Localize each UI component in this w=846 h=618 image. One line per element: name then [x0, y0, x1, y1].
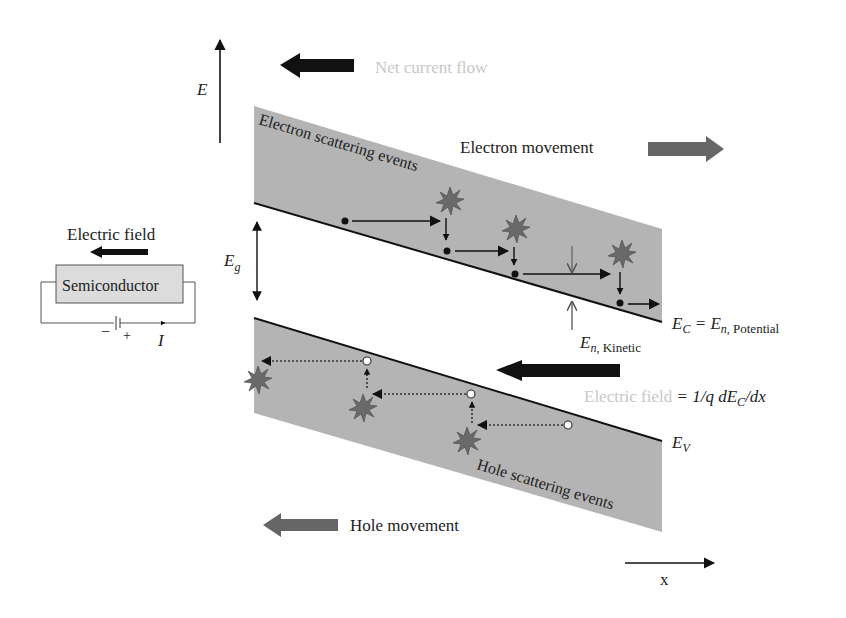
electron-movement: Electron movement: [460, 136, 724, 162]
battery-plus: +: [123, 328, 131, 343]
net-current-label: Net current flow: [375, 58, 488, 77]
hole-movement-label: Hole movement: [350, 516, 459, 535]
x-axis: x: [625, 563, 714, 589]
kinetic-energy-label: En, Kinetic: [579, 333, 641, 355]
net-current-arrow-icon: [280, 53, 354, 78]
electron-movement-label: Electron movement: [460, 138, 594, 157]
energy-axis: E: [196, 40, 220, 143]
x-axis-label: x: [660, 570, 669, 589]
conduction-band: Electron scattering events: [254, 106, 662, 322]
hole-movement: Hole movement: [263, 513, 459, 537]
conduction-band-label: EC = En, Potential: [671, 314, 780, 336]
electron-movement-arrow-icon: [648, 136, 724, 162]
circuit-title: Electric field: [67, 225, 156, 244]
current-label: I: [157, 331, 165, 350]
circuit-field-arrow-icon: [90, 246, 148, 258]
energy-axis-label: E: [196, 80, 208, 99]
net-current-flow: Net current flow: [280, 53, 488, 78]
bandgap-label: Eg: [223, 251, 240, 274]
valence-band-label: EV: [671, 433, 691, 455]
bandgap-indicator: Eg: [223, 222, 257, 300]
electric-field-indicator: Electric field = 1/q dEC/dx: [496, 360, 766, 409]
battery-minus: −: [101, 323, 110, 340]
electric-field-equation: Electric field = 1/q dEC/dx: [584, 387, 766, 409]
circuit-inset: Electric field Semiconductor − + I: [41, 225, 195, 350]
electric-field-arrow-icon: [496, 360, 620, 381]
hole-movement-arrow-icon: [263, 513, 338, 537]
semiconductor-label: Semiconductor: [62, 277, 160, 294]
